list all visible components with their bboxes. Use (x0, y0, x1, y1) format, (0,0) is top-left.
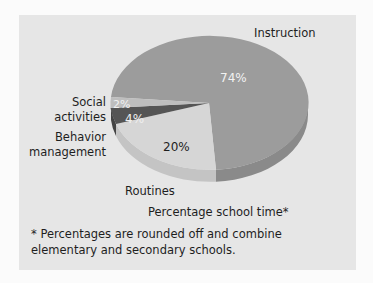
label-behavior-line1: Behavior (46, 130, 106, 144)
pct-behavior: 4% (125, 112, 144, 126)
pct-instruction: 74% (220, 71, 247, 85)
chart-title: Percentage school time* (148, 205, 289, 219)
label-social-line2: activities (46, 110, 106, 124)
label-social-line1: Social (60, 95, 106, 109)
label-routines: Routines (125, 184, 175, 198)
footnote: * Percentages are rounded off and combin… (31, 226, 351, 258)
pct-social: 2% (113, 98, 130, 111)
pct-routines: 20% (163, 140, 190, 154)
label-behavior-line2: management (26, 145, 106, 159)
label-instruction: Instruction (254, 26, 316, 40)
